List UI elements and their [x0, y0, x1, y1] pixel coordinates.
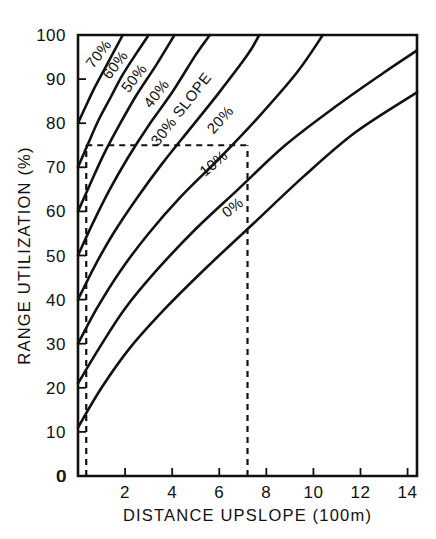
- y-tick-label-40: 40: [46, 291, 66, 310]
- y-tick-label-30: 30: [46, 335, 66, 354]
- x-axis-title: DISTANCE UPSLOPE (100m): [123, 506, 372, 524]
- y-tick-label-50: 50: [46, 247, 66, 266]
- x-tick-label-2: 2: [120, 483, 130, 502]
- y-tick-label-10: 10: [46, 423, 66, 442]
- x-tick-label-12: 12: [351, 483, 371, 502]
- curve-label-0: 0%: [218, 193, 246, 220]
- y-tick-label-100: 100: [36, 26, 66, 45]
- y-axis-title-group: RANGE UTILIZATION (%): [15, 146, 33, 364]
- y-tick-label-0: 0: [56, 467, 66, 486]
- chart-figure: 02468101214010203040506070809010070%60%5…: [0, 0, 436, 539]
- x-tick-label-14: 14: [398, 483, 418, 502]
- x-tick-label-4: 4: [167, 483, 177, 502]
- y-tick-label-20: 20: [46, 379, 66, 398]
- x-tick-label-8: 8: [261, 483, 271, 502]
- y-axis-title: RANGE UTILIZATION (%): [15, 146, 33, 364]
- curve-label-group-0: 0%: [218, 193, 246, 220]
- x-tick-label-6: 6: [214, 483, 224, 502]
- y-tick-label-90: 90: [46, 70, 66, 89]
- y-tick-label-60: 60: [46, 202, 66, 221]
- x-tick-label-10: 10: [303, 483, 323, 502]
- y-tick-label-80: 80: [46, 114, 66, 133]
- curve-10: [78, 50, 417, 383]
- chart-canvas: 02468101214010203040506070809010070%60%5…: [0, 0, 436, 539]
- y-tick-label-70: 70: [46, 158, 66, 177]
